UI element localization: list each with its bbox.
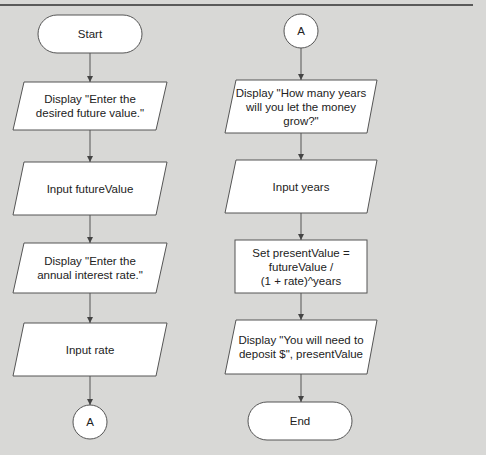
start-label: Start	[38, 15, 142, 53]
input-future-label: Input futureValue	[18, 162, 162, 215]
process-label: Set presentValue = futureValue / (1 + ra…	[235, 240, 367, 293]
display-result-label: Display "You will need to deposit $", pr…	[228, 320, 374, 374]
display-years-label: Display "How many years will you let the…	[228, 80, 374, 133]
input-rate-label: Input rate	[18, 323, 162, 376]
flowchart-shapes	[0, 0, 486, 458]
display-future-label: Display "Enter the desired future value.…	[18, 82, 162, 130]
end-label: End	[248, 402, 352, 440]
input-years-label: Input years	[228, 160, 374, 213]
display-rate-label: Display "Enter the annual interest rate.…	[18, 243, 162, 293]
connector-a-out-label: A	[73, 405, 107, 439]
connector-a-in-label: A	[284, 14, 318, 48]
